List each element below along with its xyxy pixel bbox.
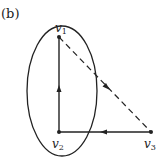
- arrow-up-icon: [57, 85, 62, 92]
- figure-label: (b): [1, 6, 19, 21]
- node-label-v1: v1: [55, 21, 67, 36]
- node-v1: [57, 35, 61, 39]
- grouping-ellipse: [27, 26, 97, 156]
- arrow-left-icon: [100, 130, 107, 135]
- node-v3: [149, 130, 153, 134]
- graph-diagram: (b) v1 v2 v3: [0, 0, 162, 161]
- node-label-v3: v3: [144, 137, 156, 152]
- node-label-v2: v2: [52, 137, 64, 152]
- arrow-diag-icon: [103, 83, 111, 90]
- node-v2: [57, 130, 61, 134]
